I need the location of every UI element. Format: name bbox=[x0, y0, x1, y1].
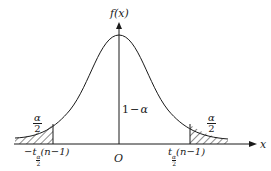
origin-label: O bbox=[114, 153, 123, 164]
left-tail-area-label: α 2 bbox=[33, 113, 42, 134]
x-axis-arrow-icon bbox=[249, 141, 257, 147]
x-axis-label: x bbox=[260, 139, 266, 150]
y-axis-label: f(x) bbox=[110, 8, 129, 19]
right-tail-area-label: α 2 bbox=[207, 113, 216, 134]
density-curve bbox=[15, 35, 228, 139]
right-critical-value-label: tα2(n−1) bbox=[168, 147, 205, 167]
y-axis-arrow-icon bbox=[116, 22, 122, 29]
center-area-label: 11−α − α bbox=[122, 104, 148, 115]
left-critical-value-label: −tα2(n−1) bbox=[24, 147, 69, 167]
